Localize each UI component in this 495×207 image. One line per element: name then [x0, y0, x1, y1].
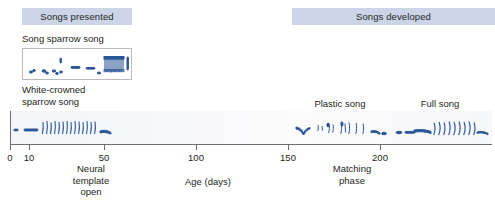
song-learning-figure: Songs presented Songs developed Song spa… [0, 0, 495, 207]
x-axis-title: Age (days) [185, 176, 231, 187]
full-song-label: Full song [405, 98, 475, 110]
x-tick-label-50: 50 [99, 152, 110, 163]
x-tick-50 [104, 145, 105, 150]
x-tick-label-150: 150 [280, 152, 296, 163]
song-sparrow-song-label: Song sparrow song [22, 33, 142, 45]
timeline-spectrogram-strip [10, 111, 492, 144]
x-tick-label-0: 0 [7, 152, 12, 163]
x-tick-label-10: 10 [24, 152, 35, 163]
band-songs-presented-label: Songs presented [40, 11, 113, 22]
x-tick-100 [196, 145, 197, 150]
x-tick-10 [29, 145, 30, 150]
white-crowned-sparrow-song-label: White-crowned sparrow song [22, 84, 142, 107]
matching-phase-label: Matching phase [307, 163, 397, 186]
y-axis-line [10, 111, 11, 145]
song-sparrow-spectrogram [23, 49, 132, 80]
band-songs-developed-label: Songs developed [356, 11, 431, 22]
x-axis-line [10, 144, 492, 145]
x-tick-label-100: 100 [188, 152, 204, 163]
band-songs-presented: Songs presented [22, 8, 132, 25]
x-tick-200 [380, 145, 381, 150]
band-songs-developed: Songs developed [292, 8, 495, 25]
timeline-spectrogram [10, 111, 492, 144]
x-tick-150 [288, 145, 289, 150]
song-sparrow-spectrogram-inset [22, 48, 132, 80]
neural-template-open-label: Neural template open [46, 163, 136, 198]
x-tick-0 [10, 145, 11, 150]
x-tick-label-200: 200 [372, 152, 388, 163]
plastic-song-label: Plastic song [300, 98, 380, 110]
